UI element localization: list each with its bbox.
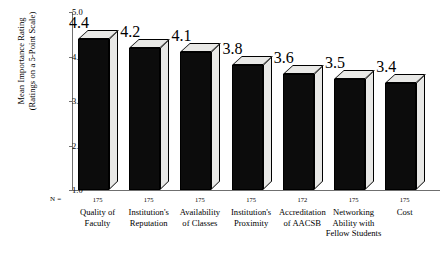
y-axis-title-line-1: Mean Importance Rating — [16, 0, 27, 151]
bar-side-face — [109, 30, 118, 190]
bar-value-label: 3.8 — [223, 40, 243, 58]
bar-value-label: 4.4 — [69, 14, 89, 32]
x-axis-category-label-line: Ability with — [323, 218, 385, 229]
x-axis-category-label: Cost — [374, 207, 436, 218]
y-axis-tick-mark — [69, 101, 72, 102]
bar-front-face — [334, 79, 365, 190]
bar-side-face — [314, 66, 323, 190]
bar-front-face — [180, 52, 211, 190]
bar-side-face — [365, 70, 374, 190]
bar-side-face — [160, 39, 169, 190]
bar — [232, 55, 263, 190]
y-axis-tick-mark — [69, 146, 72, 147]
bar-value-label: 4.2 — [120, 23, 140, 41]
bar-front-face — [232, 65, 263, 190]
x-axis-line — [72, 190, 440, 191]
bar — [180, 42, 211, 190]
y-axis-tick-mark — [69, 190, 72, 191]
bar-value-label: 3.5 — [325, 54, 345, 72]
bar-front-face — [129, 48, 160, 190]
n-count-value: 175 — [375, 196, 435, 203]
bar-front-face — [283, 74, 314, 190]
bar-value-label: 4.1 — [171, 27, 191, 45]
bar-front-face — [78, 39, 109, 190]
bar-side-face — [416, 74, 425, 189]
n-row-label: N = — [50, 196, 61, 203]
bar — [129, 38, 160, 190]
bar-side-face — [211, 43, 220, 190]
bar-side-face — [263, 57, 272, 190]
bar — [385, 73, 416, 190]
bar-value-label: 3.6 — [274, 49, 294, 67]
bar — [283, 64, 314, 190]
y-axis-title-line-2: (Ratings on a 5-Point Scale) — [27, 0, 38, 151]
bar-front-face — [385, 83, 416, 190]
x-axis-category-label-line: Fellow Students — [323, 228, 385, 239]
bar — [78, 29, 109, 190]
bar-chart: Mean Importance Rating (Ratings on a 5-P… — [0, 0, 442, 254]
bar — [334, 69, 365, 190]
y-axis-title: Mean Importance Rating (Ratings on a 5-P… — [16, 0, 38, 151]
bar-value-label: 3.4 — [376, 58, 396, 76]
x-axis-category-label-line: Cost — [374, 207, 436, 218]
y-axis-tick-mark — [69, 57, 72, 58]
